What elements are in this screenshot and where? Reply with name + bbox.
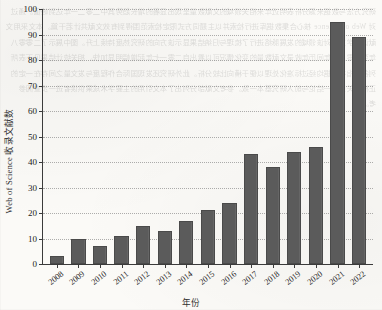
bar[interactable] bbox=[158, 231, 172, 264]
bar[interactable] bbox=[71, 239, 85, 265]
x-axis-tick-label: 2016 bbox=[219, 269, 238, 286]
bar[interactable] bbox=[179, 221, 193, 264]
y-axis-tick-label: 50 bbox=[28, 132, 37, 142]
x-axis-tick-label: 2017 bbox=[241, 269, 260, 286]
x-axis-tick-label: 2021 bbox=[327, 269, 346, 286]
y-axis-tick-label: 70 bbox=[28, 81, 37, 91]
x-axis-tick bbox=[57, 264, 58, 268]
bar-slot: 2015 bbox=[197, 9, 219, 264]
x-axis-tick-label: 2009 bbox=[68, 269, 87, 286]
x-axis-tick bbox=[122, 264, 123, 268]
y-axis-tick bbox=[39, 264, 43, 265]
y-axis-tick-label: 100 bbox=[24, 4, 38, 14]
bar[interactable] bbox=[266, 167, 280, 264]
x-axis-tick bbox=[230, 264, 231, 268]
x-axis-tick-label: 2013 bbox=[154, 269, 173, 286]
bar[interactable] bbox=[309, 147, 323, 264]
bar-slot: 2012 bbox=[132, 9, 154, 264]
x-axis-tick bbox=[208, 264, 209, 268]
bar[interactable] bbox=[330, 22, 344, 264]
x-axis-tick-label: 2020 bbox=[306, 269, 325, 286]
x-axis-tick-label: 2015 bbox=[198, 269, 217, 286]
bar[interactable] bbox=[222, 203, 236, 264]
x-axis-tick bbox=[186, 264, 187, 268]
bar-slot: 2018 bbox=[262, 9, 284, 264]
bar-slot: 2019 bbox=[284, 9, 306, 264]
plot-area: 0102030405060708090100 20082009201020112… bbox=[42, 9, 373, 265]
x-axis-tick bbox=[251, 264, 252, 268]
bar[interactable] bbox=[352, 37, 366, 264]
y-axis-tick-label: 0 bbox=[33, 259, 38, 269]
x-axis-tick-label: 2014 bbox=[176, 269, 195, 286]
x-axis-tick-label: 2019 bbox=[284, 269, 303, 286]
bar[interactable] bbox=[114, 236, 128, 264]
bar[interactable] bbox=[136, 226, 150, 264]
x-axis-tick bbox=[78, 264, 79, 268]
x-axis-title: 年份 bbox=[0, 296, 382, 308]
y-axis-title: Web of Science 收录文献数 bbox=[2, 96, 14, 226]
bar-slot: 2010 bbox=[89, 9, 111, 264]
y-axis-tick-label: 40 bbox=[28, 157, 37, 167]
x-axis-tick-label: 2010 bbox=[90, 269, 109, 286]
x-axis-tick bbox=[359, 264, 360, 268]
x-axis-tick bbox=[294, 264, 295, 268]
bar[interactable] bbox=[50, 256, 64, 264]
bar-chart: Web of Science 收录文献数 年份 0102030405060708… bbox=[0, 0, 382, 310]
x-axis-tick-label: 2022 bbox=[349, 269, 368, 286]
bar-slot: 2017 bbox=[240, 9, 262, 264]
bar-series: 2008200920102011201220132014201520162017… bbox=[43, 9, 373, 264]
y-axis-tick-label: 20 bbox=[28, 208, 37, 218]
bar-slot: 2020 bbox=[305, 9, 327, 264]
bar[interactable] bbox=[201, 210, 215, 264]
bar-slot: 2022 bbox=[348, 9, 370, 264]
x-axis-tick-label: 2012 bbox=[133, 269, 152, 286]
x-axis-tick-label: 2008 bbox=[46, 269, 65, 286]
bar-slot: 2013 bbox=[154, 9, 176, 264]
bar-slot: 2009 bbox=[68, 9, 90, 264]
bar[interactable] bbox=[287, 152, 301, 264]
y-axis-tick-label: 60 bbox=[28, 106, 37, 116]
bar-slot: 2016 bbox=[219, 9, 241, 264]
bar-slot: 2008 bbox=[46, 9, 68, 264]
y-axis-tick-label: 10 bbox=[28, 234, 37, 244]
x-axis-tick bbox=[100, 264, 101, 268]
y-axis-tick-label: 90 bbox=[28, 30, 37, 40]
x-axis-tick-label: 2011 bbox=[111, 269, 130, 286]
x-axis-tick bbox=[273, 264, 274, 268]
x-axis-tick bbox=[165, 264, 166, 268]
x-axis-tick-label: 2018 bbox=[262, 269, 281, 286]
y-axis-tick-label: 30 bbox=[28, 183, 37, 193]
bar-slot: 2011 bbox=[111, 9, 133, 264]
x-axis-tick bbox=[316, 264, 317, 268]
y-axis-tick-label: 80 bbox=[28, 55, 37, 65]
x-axis-tick bbox=[143, 264, 144, 268]
bar-slot: 2021 bbox=[327, 9, 349, 264]
x-axis-tick bbox=[338, 264, 339, 268]
bar[interactable] bbox=[93, 246, 107, 264]
bar[interactable] bbox=[244, 154, 258, 264]
bar-slot: 2014 bbox=[176, 9, 198, 264]
